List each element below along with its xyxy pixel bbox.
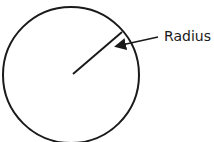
circle-diagram [0,0,214,142]
radius-pointer-arrow [117,37,158,46]
circle-outline [3,7,139,142]
radius-label: Radius [164,28,211,44]
radius-line [73,32,122,74]
